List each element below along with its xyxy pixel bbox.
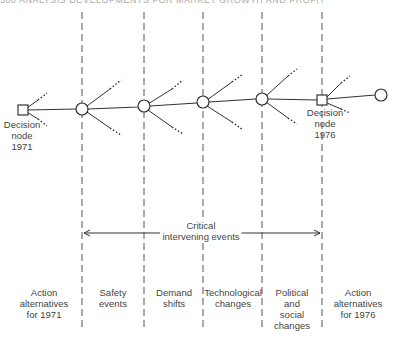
decision-node-1976-icon [317,95,327,105]
label-line: for 1971 [20,309,69,320]
branch-continuations [38,69,350,135]
column-label-action-1976: Action alternatives for 1976 [334,287,383,320]
label-line: alternatives [20,298,69,309]
critical-events-label: Critical intervening events [160,220,241,242]
label-line: intervening events [162,231,239,242]
label-line: 1976 [307,129,343,140]
label-line: shifts [156,298,192,309]
label-line: Action [334,287,383,298]
label-line: Decision [4,119,40,130]
label-line: and [274,298,310,309]
column-label-action-1971: Action alternatives for 1971 [20,287,69,320]
label-line: Demand [156,287,192,298]
label-line: node [4,130,40,141]
chance-node-political-icon [256,93,268,105]
label-line: 1971 [4,141,40,152]
label-line: node [307,118,343,129]
chance-node-technology-icon [197,96,209,108]
branches [27,76,341,128]
decision-node-1976-label: Decision node 1976 [307,107,343,140]
column-label-political: Political and social changes [274,287,310,331]
chance-node-safety-icon [76,103,88,115]
label-line: Decision [307,107,343,118]
label-line: alternatives [334,298,383,309]
label-line: events [99,298,127,309]
label-line: social [274,309,310,320]
label-line: Action [20,287,69,298]
label-line: Critical [162,220,239,231]
column-label-technological: Technological changes [204,287,262,309]
decision-node-1971-label: Decision node 1971 [4,119,40,152]
column-label-demand: Demand shifts [156,287,192,309]
label-line: Safety [99,287,127,298]
column-dividers [82,12,322,330]
label-line: changes [204,298,262,309]
decision-node-1971-icon [18,105,28,115]
label-line: changes [274,320,310,331]
chance-node-demand-icon [138,100,150,112]
label-line: for 1976 [334,309,383,320]
label-line: Technological [204,287,262,298]
outcome-node-icon [375,89,387,101]
column-label-safety: Safety events [99,287,127,309]
label-line: Political [274,287,310,298]
